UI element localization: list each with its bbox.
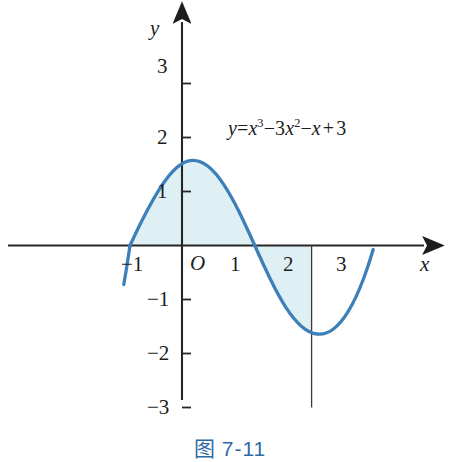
y-tick-label-2: 2	[157, 127, 168, 148]
x-tick-label-3: 3	[336, 254, 347, 275]
equation-op2: −	[300, 117, 311, 139]
y-tick-label-minus2: −2	[147, 343, 169, 364]
figure-caption: 图7-11	[0, 432, 460, 462]
equation-op3: +	[323, 117, 334, 139]
y-tick-label-minus3: −3	[147, 397, 169, 418]
y-tick-label-minus1: −1	[147, 289, 169, 310]
equation-term4: 3	[336, 117, 346, 139]
y-tick-label-1: 1	[157, 181, 168, 202]
equation-term2-base: x	[285, 117, 294, 139]
caption-figure-number: 7-11	[222, 437, 266, 460]
x-tick-label-2: 2	[283, 254, 294, 275]
x-axis-label: x	[420, 254, 429, 275]
caption-figure-word: 图	[194, 437, 216, 460]
equation-term2-coefficient: 3	[275, 117, 285, 139]
x-tick-label-minus1: −1	[121, 254, 143, 275]
equation-annotation: y=x3−3x2−x+3	[228, 117, 346, 140]
equation-term1-base: x	[248, 117, 257, 139]
equation-term3-base: x	[312, 117, 321, 139]
equation-op1: −	[264, 117, 275, 139]
y-tick-label-3: 3	[157, 56, 168, 77]
equation-equals: =	[237, 117, 248, 139]
equation-lhs: y	[228, 117, 237, 139]
x-tick-label-1: 1	[230, 254, 241, 275]
y-axis-label: y	[150, 18, 159, 39]
origin-label: O	[190, 253, 205, 274]
